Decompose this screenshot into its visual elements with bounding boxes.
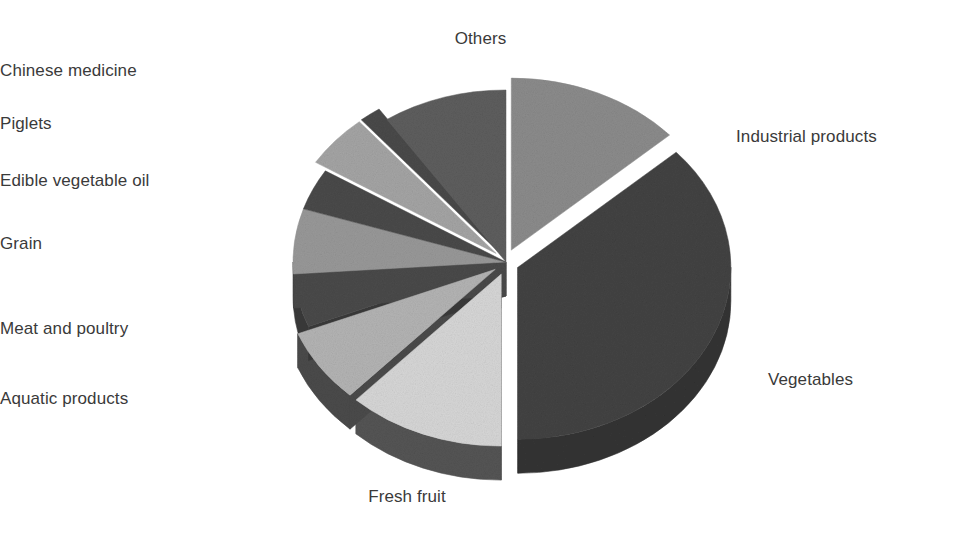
pie-chart-figure: Others Chinese medicine Piglets Edible v…	[0, 0, 961, 544]
pie-label-chinese-medicine: Chinese medicine	[0, 62, 341, 81]
pie-label-edible-vegetable-oil: Edible vegetable oil	[0, 172, 306, 191]
pie-label-industrial-products: Industrial products	[736, 128, 877, 147]
pie-label-fresh-fruit: Fresh fruit	[282, 488, 532, 507]
pie-label-grain: Grain	[0, 235, 234, 254]
pie-label-meat-and-poultry: Meat and poultry	[0, 320, 248, 339]
pie-label-vegetables: Vegetables	[768, 371, 853, 390]
pie-label-piglets: Piglets	[0, 115, 282, 134]
pie-label-others: Others	[0, 30, 961, 49]
pie-chart-canvas	[0, 0, 961, 544]
pie-label-aquatic-products: Aquatic products	[0, 390, 324, 409]
